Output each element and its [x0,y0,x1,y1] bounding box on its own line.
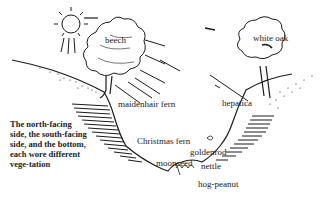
label-goldenrod: goldenrod [190,147,227,157]
label-nettle: nettle [201,161,221,171]
label-hog-peanut: hog-peanut [198,179,239,189]
label-hepatica: hepatica [222,98,252,108]
caption: The north-facing side, the south-facing … [10,119,88,169]
soil-stipple-right [269,75,312,108]
soil-stipple-left [39,67,96,92]
label-maidenhair-fern: maidenhair fern [118,99,175,109]
label-beech: beech [105,35,126,45]
label-moonseed: moonseed [156,158,193,168]
white-oak-tree [237,17,285,98]
label-christmas-fern: Christmas fern [137,136,190,146]
label-white-oak: white oak [253,33,288,43]
